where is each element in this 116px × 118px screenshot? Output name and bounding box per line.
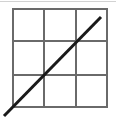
figure-container	[0, 0, 116, 118]
grid-diagonal-figure	[0, 0, 116, 118]
